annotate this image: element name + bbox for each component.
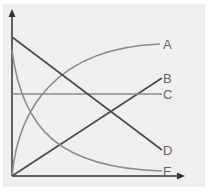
line-chart: A B C D E [0, 0, 214, 192]
series-b-label: B [163, 71, 172, 86]
series-c-label: C [163, 87, 172, 102]
series-a-label: A [163, 37, 172, 52]
series-e-label: E [163, 164, 172, 179]
plot-background [3, 4, 205, 187]
series-d-label: D [163, 143, 172, 158]
